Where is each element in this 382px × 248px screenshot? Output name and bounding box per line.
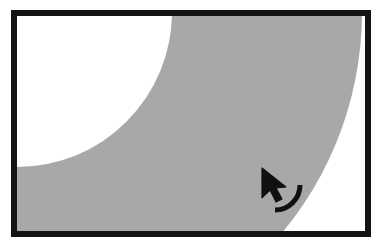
frame-bottom-bar	[11, 231, 371, 237]
screenshot-root: Framed diagram showing a gray crescent b…	[0, 0, 382, 248]
gray-crescent-band	[0, 0, 382, 248]
figure-canvas	[0, 0, 382, 248]
frame-top-bar	[11, 10, 371, 16]
frame-left-bar	[11, 10, 17, 237]
frame-right-bar	[365, 10, 371, 237]
